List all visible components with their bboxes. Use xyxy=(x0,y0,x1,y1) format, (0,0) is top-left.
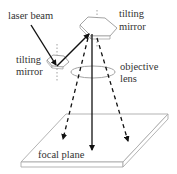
laser-beam-label: laser beam xyxy=(8,10,53,21)
focal-plane-label: focal plane xyxy=(38,149,85,160)
scanning-optics-diagram: laser beam tilting mirror tilting mirror… xyxy=(0,0,177,174)
top-tilting-mirror-shape xyxy=(80,17,117,39)
objective-lens-label-line1: objective xyxy=(120,61,159,72)
objective-lens-label-line2: lens xyxy=(120,73,137,84)
left-tilting-mirror-label-line2: mirror xyxy=(16,66,43,77)
reflected-beam-arrow xyxy=(57,34,89,66)
top-tilting-mirror-label-line1: tilting xyxy=(119,8,145,19)
left-tilting-mirror-label-line1: tilting xyxy=(16,54,42,65)
top-tilting-mirror-label-line2: mirror xyxy=(119,21,146,32)
